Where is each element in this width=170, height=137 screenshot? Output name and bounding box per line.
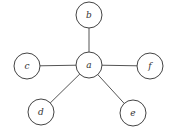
node-b: b [76, 2, 102, 28]
star-graph-diagram: a b c f d e [0, 0, 170, 137]
node-c: c [14, 53, 40, 79]
node-a-label: a [86, 60, 91, 70]
node-e-label: e [130, 108, 135, 118]
node-d: d [28, 99, 54, 125]
node-e: e [120, 100, 146, 126]
node-f: f [137, 53, 163, 79]
node-c-label: c [24, 61, 29, 71]
node-b-label: b [86, 10, 92, 20]
node-a: a [76, 52, 102, 78]
node-d-label: d [38, 107, 44, 117]
